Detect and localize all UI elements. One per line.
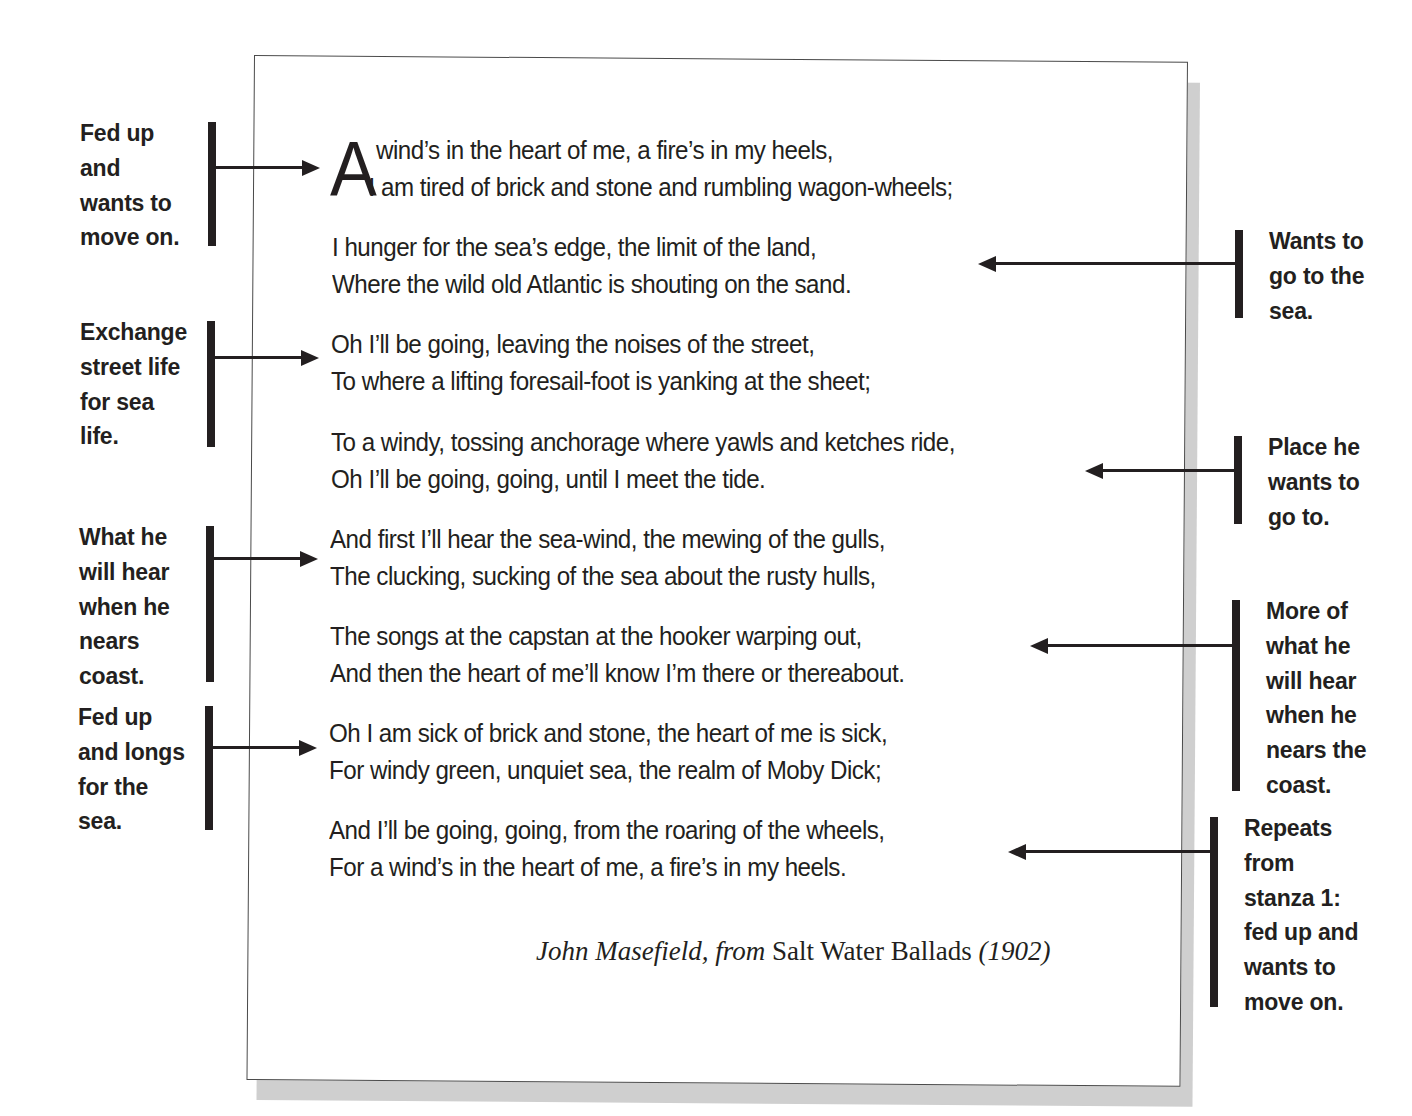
stanza-5: And first I’ll hear the sea-wind, the me… xyxy=(330,521,885,595)
bracket-bar-icon xyxy=(1232,600,1240,791)
poem-line: The clucking, sucking of the sea about t… xyxy=(330,558,885,595)
bracket-bar-icon xyxy=(208,122,216,246)
book-title: Salt Water Ballads xyxy=(772,936,972,966)
bracket-bar-icon xyxy=(1234,436,1242,524)
stanza-7: Oh I am sick of brick and stone, the hea… xyxy=(329,715,887,789)
annotation-line: More of xyxy=(1266,594,1366,629)
annotation-line: Exchange xyxy=(80,315,187,350)
annotation-line: when he xyxy=(79,590,170,625)
annotation-line: from xyxy=(1244,846,1358,881)
annotation-line: go to. xyxy=(1268,500,1360,535)
annotation-left-4: Fed up and longs for the sea. xyxy=(78,700,185,839)
poem-line: Oh I am sick of brick and stone, the hea… xyxy=(329,715,887,752)
annotation-line: move on. xyxy=(1244,985,1358,1020)
annotation-line: go to the xyxy=(1269,259,1364,294)
stanza-3: Oh I’ll be going, leaving the noises of … xyxy=(331,326,870,400)
arrow-left-icon xyxy=(992,262,1235,265)
poem-line: And I’ll be going, going, from the roari… xyxy=(329,812,885,849)
arrow-right-icon xyxy=(211,746,303,749)
stanza-2: I hunger for the sea’s edge, the limit o… xyxy=(332,229,851,303)
annotation-line: wants to xyxy=(1244,950,1358,985)
poem-line: And first I’ll hear the sea-wind, the me… xyxy=(330,521,885,558)
poem-line: I am tired of brick and stone and rumbli… xyxy=(369,169,953,206)
annotation-left-2: Exchange street life for sea life. xyxy=(80,315,187,454)
poem-line: For a wind’s in the heart of me, a fire’… xyxy=(329,849,885,886)
annotation-line: Fed up xyxy=(78,700,185,735)
annotation-line: for sea xyxy=(80,385,187,420)
annotation-line: Place he xyxy=(1268,430,1360,465)
annotation-line: coast. xyxy=(1266,768,1366,803)
bracket-bar-icon xyxy=(1210,817,1218,1007)
poem-line: The songs at the capstan at the hooker w… xyxy=(330,618,904,655)
annotation-right-1: Wants to go to the sea. xyxy=(1269,224,1364,328)
annotation-line: when he xyxy=(1266,698,1366,733)
annotation-line: fed up and xyxy=(1244,915,1358,950)
annotation-line: Fed up xyxy=(80,116,179,151)
from-word: from xyxy=(715,936,765,966)
stanza-4: To a windy, tossing anchorage where yawl… xyxy=(331,424,955,498)
arrow-right-icon xyxy=(213,356,305,359)
publication-year: (1902) xyxy=(979,936,1051,966)
poem-line: Oh I’ll be going, leaving the noises of … xyxy=(331,326,870,363)
annotation-right-2: Place he wants to go to. xyxy=(1268,430,1360,534)
annotation-line: will hear xyxy=(79,555,170,590)
annotation-line: Repeats xyxy=(1244,811,1358,846)
bracket-bar-icon xyxy=(1235,230,1243,318)
annotation-line: and xyxy=(80,151,179,186)
annotation-line: sea. xyxy=(1269,294,1364,329)
annotation-line: and longs xyxy=(78,735,185,770)
stanza-1-lines: wind’s in the heart of me, a fire’s in m… xyxy=(376,132,953,206)
annotation-line: street life xyxy=(80,350,187,385)
annotation-line: what he xyxy=(1266,629,1366,664)
arrow-left-icon xyxy=(1044,644,1232,647)
annotation-line: sea. xyxy=(78,804,185,839)
annotation-line: will hear xyxy=(1266,664,1366,699)
bracket-bar-icon xyxy=(206,526,214,682)
poem-attribution: John Masefield, from Salt Water Ballads … xyxy=(536,934,1051,968)
poem-line: To a windy, tossing anchorage where yawl… xyxy=(331,424,955,461)
arrow-right-icon xyxy=(212,557,304,560)
annotation-left-1: Fed up and wants to move on. xyxy=(80,116,179,255)
annotation-line: move on. xyxy=(80,220,179,255)
poem-line: Oh I’ll be going, going, until I meet th… xyxy=(331,461,955,498)
annotation-line: nears the xyxy=(1266,733,1366,768)
annotation-line: stanza 1: xyxy=(1244,881,1358,916)
annotation-line: coast. xyxy=(79,659,170,694)
arrow-left-icon xyxy=(1022,850,1210,853)
author-name: John Masefield, xyxy=(536,936,708,966)
annotation-line: life. xyxy=(80,419,187,454)
poem-line: Where the wild old Atlantic is shouting … xyxy=(332,266,851,303)
annotation-line: Wants to xyxy=(1269,224,1364,259)
annotation-right-3: More of what he will hear when he nears … xyxy=(1266,594,1366,803)
poem-line: For windy green, unquiet sea, the realm … xyxy=(329,752,887,789)
poem-line: And then the heart of me’ll know I’m the… xyxy=(330,655,904,692)
annotation-line: wants to xyxy=(80,186,179,221)
poem-line: wind’s in the heart of me, a fire’s in m… xyxy=(376,132,953,169)
stanza-6: The songs at the capstan at the hooker w… xyxy=(330,618,904,692)
annotation-line: nears xyxy=(79,624,170,659)
annotation-line: What he xyxy=(79,520,170,555)
annotation-line: wants to xyxy=(1268,465,1360,500)
annotation-left-3: What he will hear when he nears coast. xyxy=(79,520,170,694)
poem-line: I hunger for the sea’s edge, the limit o… xyxy=(332,229,851,266)
bracket-bar-icon xyxy=(207,321,215,447)
annotation-line: for the xyxy=(78,770,185,805)
arrow-left-icon xyxy=(1099,469,1234,472)
arrow-right-icon xyxy=(214,166,306,169)
poem-line: To where a lifting foresail-foot is yank… xyxy=(331,363,870,400)
annotation-right-4: Repeats from stanza 1: fed up and wants … xyxy=(1244,811,1358,1020)
stanza-8: And I’ll be going, going, from the roari… xyxy=(329,812,885,886)
bracket-bar-icon xyxy=(205,706,213,830)
